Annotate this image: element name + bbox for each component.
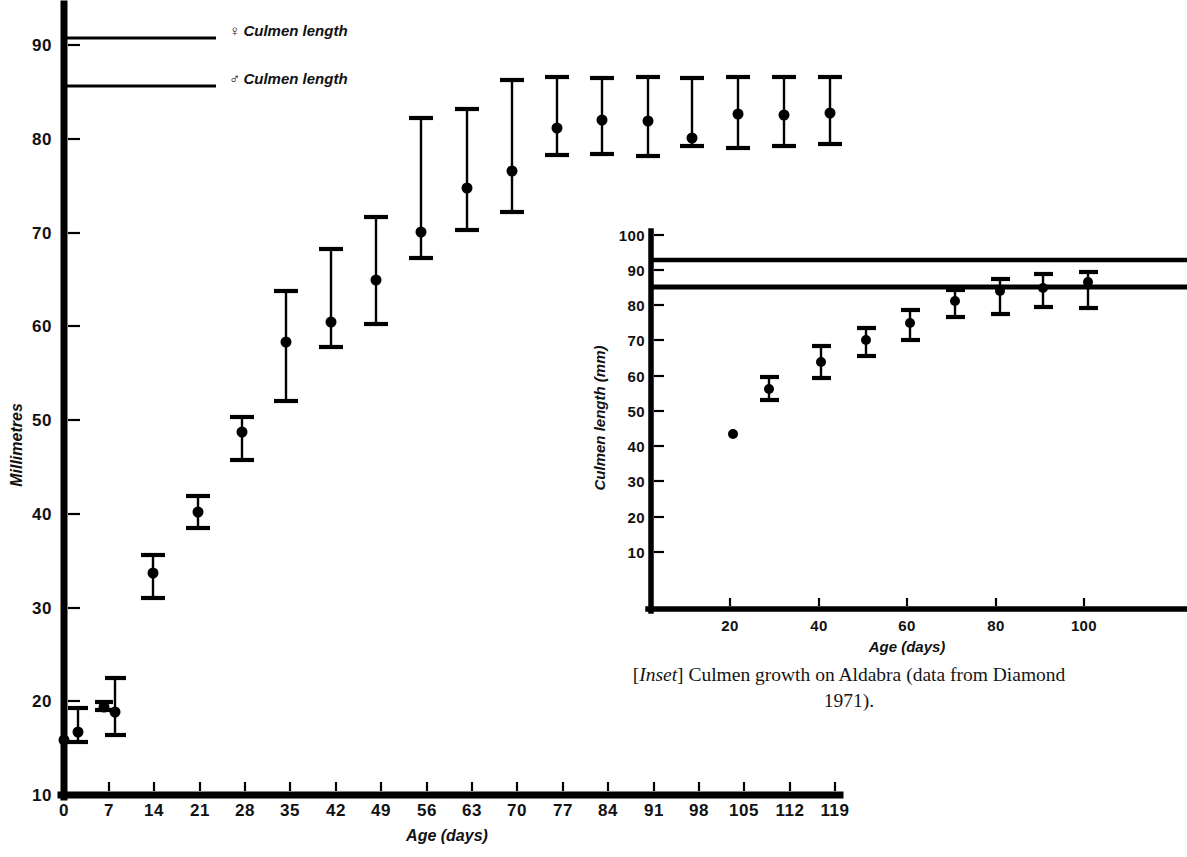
inset-ytick-10: 10 xyxy=(628,544,646,561)
inset-xtick-100: 100 xyxy=(1071,617,1097,634)
main-xtick-35: 35 xyxy=(280,801,300,820)
main-ytick-50: 50 xyxy=(32,411,52,430)
caption-text: Culmen growth on Aldabra (data from Diam… xyxy=(684,664,1066,685)
caption-year: 1971). xyxy=(566,688,1132,714)
data-point xyxy=(552,123,563,134)
main-xtick-112: 112 xyxy=(775,801,804,820)
main-x-ticks xyxy=(64,782,835,791)
inset-xtick-20: 20 xyxy=(721,617,739,634)
main-y-axis-title: Millimetres xyxy=(8,403,25,487)
data-point xyxy=(507,166,518,177)
caption-inset-word: Inset xyxy=(639,664,677,685)
data-point xyxy=(237,427,248,438)
main-xtick-21: 21 xyxy=(190,801,210,820)
inset-ytick-70: 70 xyxy=(628,332,646,349)
main-ytick-40: 40 xyxy=(32,505,52,524)
inset-xtick-80: 80 xyxy=(987,617,1005,634)
main-ytick-80: 80 xyxy=(32,130,52,149)
main-xtick-14: 14 xyxy=(144,801,164,820)
data-point xyxy=(193,507,204,518)
main-xtick-84: 84 xyxy=(598,801,618,820)
inset-caption: [Inset] Culmen growth on Aldabra (data f… xyxy=(566,662,1132,714)
main-y-ticks xyxy=(68,45,80,701)
data-point xyxy=(1083,277,1093,287)
data-point xyxy=(779,110,790,121)
data-point xyxy=(733,109,744,120)
data-point xyxy=(905,318,915,328)
main-xtick-98: 98 xyxy=(689,801,709,820)
legend-female-label: ♀ Culmen length xyxy=(228,22,348,39)
main-xtick-42: 42 xyxy=(326,801,346,820)
data-point xyxy=(861,335,871,345)
main-ytick-10: 10 xyxy=(32,786,52,805)
culmen-growth-figure: 90 80 70 60 50 40 30 20 10 Millimetres xyxy=(0,0,1187,857)
inset-ytick-90: 90 xyxy=(628,262,646,279)
main-xtick-70: 70 xyxy=(507,801,527,820)
data-point xyxy=(1038,283,1048,293)
inset-x-axis-title: Age (days) xyxy=(868,638,946,655)
main-y-ticklabels: 90 80 70 60 50 40 30 20 10 xyxy=(32,36,52,805)
inset-y-axis-title: Culmen length (mm) xyxy=(591,345,608,490)
data-point xyxy=(73,727,84,738)
data-point xyxy=(110,707,121,718)
main-ytick-90: 90 xyxy=(32,36,52,55)
main-xtick-119: 119 xyxy=(820,801,849,820)
main-ytick-20: 20 xyxy=(32,692,52,711)
data-point xyxy=(643,116,654,127)
data-point xyxy=(950,296,960,306)
main-xtick-56: 56 xyxy=(417,801,437,820)
data-point xyxy=(728,429,738,439)
data-point xyxy=(995,286,1005,296)
main-data-series xyxy=(59,77,843,746)
data-point xyxy=(99,702,110,713)
data-point xyxy=(59,735,70,746)
data-point xyxy=(816,357,826,367)
inset-y-ticks xyxy=(654,235,664,552)
data-point xyxy=(764,384,774,394)
data-point xyxy=(825,108,836,119)
data-point xyxy=(326,317,337,328)
inset-ytick-60: 60 xyxy=(628,368,646,385)
inset-ytick-20: 20 xyxy=(628,509,646,526)
data-point xyxy=(687,133,698,144)
main-xtick-91: 91 xyxy=(644,801,664,820)
inset-x-ticklabels: 20 40 60 80 100 xyxy=(721,617,1097,634)
data-point xyxy=(148,568,159,579)
main-ytick-60: 60 xyxy=(32,317,52,336)
main-xtick-105: 105 xyxy=(729,801,759,820)
inset-xtick-40: 40 xyxy=(810,617,828,634)
data-point xyxy=(416,227,427,238)
data-point xyxy=(371,275,382,286)
inset-data-series xyxy=(728,272,1098,439)
main-xtick-0: 0 xyxy=(59,801,69,820)
main-xtick-28: 28 xyxy=(235,801,255,820)
inset-x-ticks xyxy=(730,598,1084,606)
figure-page: 90 80 70 60 50 40 30 20 10 Millimetres xyxy=(0,0,1187,857)
inset-plot: 100 90 80 70 60 50 40 30 20 10 Culmen le… xyxy=(591,227,1187,655)
main-x-ticklabels: 0 7 14 21 28 35 42 49 56 63 70 77 84 91 … xyxy=(59,801,850,820)
main-xtick-7: 7 xyxy=(104,801,114,820)
main-xtick-49: 49 xyxy=(371,801,391,820)
main-xtick-63: 63 xyxy=(462,801,482,820)
inset-ytick-100: 100 xyxy=(619,227,645,244)
main-ytick-70: 70 xyxy=(32,224,52,243)
inset-ytick-30: 30 xyxy=(628,473,646,490)
main-x-axis-title: Age (days) xyxy=(405,827,488,844)
data-point xyxy=(281,337,292,348)
legend-male-label: ♂ Culmen length xyxy=(228,70,348,87)
main-plot: 90 80 70 60 50 40 30 20 10 Millimetres xyxy=(8,4,850,844)
main-xtick-77: 77 xyxy=(553,801,573,820)
inset-ytick-80: 80 xyxy=(628,297,646,314)
data-point xyxy=(462,183,473,194)
inset-y-ticklabels: 100 90 80 70 60 50 40 30 20 10 xyxy=(619,227,645,561)
data-point xyxy=(597,115,608,126)
inset-ytick-50: 50 xyxy=(628,403,646,420)
inset-ytick-40: 40 xyxy=(628,438,646,455)
main-ytick-30: 30 xyxy=(32,599,52,618)
inset-xtick-60: 60 xyxy=(898,617,916,634)
